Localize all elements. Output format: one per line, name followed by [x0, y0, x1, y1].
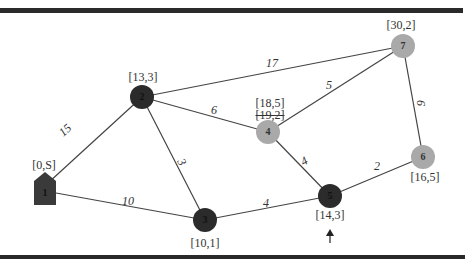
node-5-label: [14,3] [316, 209, 345, 221]
node-5-id: 5 [328, 191, 333, 201]
edge-5-6-weight: 2 [374, 160, 380, 172]
node-7-id: 7 [401, 41, 406, 51]
node-3-label: [10,1] [191, 237, 220, 249]
node-4-old-label: [19,2] [256, 109, 285, 121]
node-3-id: 3 [203, 215, 208, 225]
node-2-id: 2 [140, 92, 145, 102]
edge-4-7-weight: 5 [326, 79, 332, 91]
edge-1-2 [48, 97, 142, 183]
arrow-up-icon [326, 229, 334, 243]
edge-2-3 [142, 97, 205, 220]
node-6-label: [16,5] [411, 171, 440, 183]
node-2-label: [13,3] [129, 71, 158, 83]
node-4-id: 4 [266, 127, 271, 137]
node-1-label: [0,S] [32, 159, 56, 171]
edge-2-4 [142, 97, 268, 132]
node-6-id: 6 [421, 152, 426, 162]
edge-4-5 [268, 132, 330, 196]
edge-2-7-weight: 17 [266, 57, 278, 69]
edge-3-5-weight: 4 [263, 197, 269, 209]
edge-2-4-weight: 6 [211, 104, 217, 116]
edge-7-6-weight: 6 [415, 100, 427, 106]
graph-diagram: 1 2 3 4 5 6 7 [0,S] [13,3] [10,1] [18,5]… [0, 0, 472, 267]
edge-1-3-weight: 10 [122, 195, 134, 207]
node-7-label: [30,2] [387, 19, 416, 31]
node-1-id: 1 [43, 188, 48, 198]
